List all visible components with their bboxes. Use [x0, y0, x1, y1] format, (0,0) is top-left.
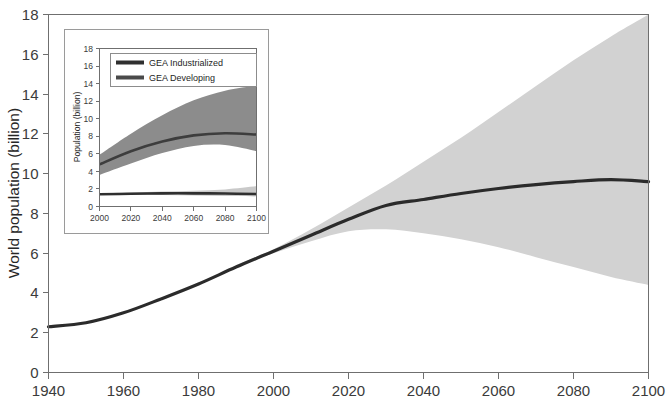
inset-y-tick-label: 10 — [84, 114, 94, 124]
inset-x-tick-label: 2100 — [247, 213, 266, 223]
y-axis-title: World population (billion) — [5, 108, 22, 278]
inset-chart: 024681012141618 200020202040206020802100… — [65, 30, 269, 234]
y-tick-label: 18 — [22, 6, 39, 23]
y-tick-label: 14 — [22, 86, 39, 103]
y-axis-ticks — [43, 15, 49, 373]
inset-legend: GEA Industrialized GEA Developing — [111, 54, 257, 87]
legend-label-industrialized: GEA Industrialized — [149, 58, 223, 68]
y-tick-label: 2 — [30, 324, 38, 341]
inset-y-tick-label: 12 — [84, 96, 94, 106]
x-tick-label: 1960 — [107, 382, 140, 399]
inset-x-tick-label: 2000 — [90, 213, 109, 223]
inset-x-tick-label: 2020 — [121, 213, 140, 223]
x-tick-label: 2060 — [482, 382, 515, 399]
x-tick-label: 2080 — [557, 382, 590, 399]
legend-label-developing: GEA Developing — [149, 73, 215, 83]
industrialized-median-line — [100, 193, 257, 194]
inset-y-tick-label: 8 — [88, 131, 93, 141]
inset-y-tick-label: 14 — [84, 79, 94, 89]
y-axis-tick-labels: 024681012141618 — [22, 6, 39, 381]
x-axis-tick-labels: 194019601980200020202040206020802100 — [32, 382, 665, 399]
x-tick-label: 1980 — [182, 382, 215, 399]
x-tick-label: 2100 — [632, 382, 665, 399]
x-tick-label: 2040 — [407, 382, 440, 399]
inset-x-tick-label: 2040 — [153, 213, 172, 223]
y-tick-label: 10 — [22, 165, 39, 182]
population-projection-figure: 024681012141618 194019601980200020202040… — [0, 0, 670, 405]
main-chart-svg: 024681012141618 194019601980200020202040… — [0, 0, 670, 405]
inset-y-tick-label: 18 — [84, 44, 94, 54]
y-tick-label: 6 — [30, 245, 38, 262]
inset-x-tick-label: 2080 — [216, 213, 235, 223]
inset-y-tick-label: 4 — [88, 167, 93, 177]
y-tick-label: 4 — [30, 284, 38, 301]
x-tick-label: 2020 — [332, 382, 365, 399]
inset-x-tick-label: 2060 — [184, 213, 203, 223]
x-tick-label: 1940 — [32, 382, 65, 399]
x-axis-ticks — [49, 373, 649, 379]
y-tick-label: 0 — [30, 364, 38, 381]
inset-y-axis-title: Population (billion) — [72, 92, 82, 163]
inset-y-tick-label: 6 — [88, 149, 93, 159]
uncertainty-band — [236, 15, 649, 285]
y-tick-label: 12 — [22, 125, 39, 142]
y-tick-label: 16 — [22, 46, 39, 63]
inset-y-tick-label: 16 — [84, 61, 94, 71]
x-tick-label: 2000 — [257, 382, 290, 399]
y-tick-label: 8 — [30, 205, 38, 222]
inset-y-tick-label: 2 — [88, 184, 93, 194]
inset-y-tick-label: 0 — [88, 202, 93, 212]
